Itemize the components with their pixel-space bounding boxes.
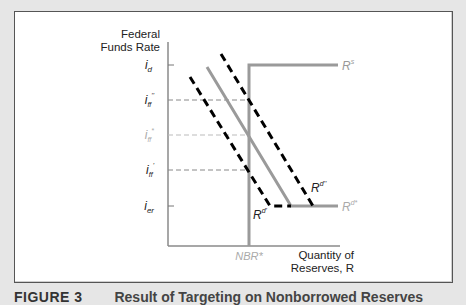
label-demand-star: Rd*	[342, 199, 358, 214]
figure-title: Result of Targeting on Nonborrowed Reser…	[114, 289, 423, 305]
label-demand-double-prime: Rd''	[311, 180, 327, 195]
x-axis-title-line2: Reserves, R	[291, 262, 354, 274]
y-axis-title-line2: Funds Rate	[101, 41, 160, 53]
tick-label-iff-prime: iff'	[146, 162, 155, 178]
y-axis-title-line1: Federal	[121, 28, 160, 40]
supply-curve	[249, 65, 338, 246]
demand-curve-prime	[190, 77, 291, 206]
figure-caption: FIGURE 3 Result of Targeting on Nonborro…	[14, 289, 423, 305]
demand-curve-double-prime	[221, 54, 313, 206]
tick-label-ier: ier	[144, 199, 154, 215]
tick-label-id: id	[145, 58, 153, 74]
tick-label-iff-double-prime: iff''	[145, 92, 155, 108]
x-axis-title-line1: Quantity of	[298, 249, 354, 261]
figure-number: FIGURE 3	[14, 289, 83, 305]
tick-label-nbr: NBR*	[235, 250, 263, 262]
label-supply: Rs	[342, 58, 355, 73]
tick-label-iff-star: iff*	[145, 127, 155, 143]
label-demand-prime: Rd'	[253, 207, 268, 222]
